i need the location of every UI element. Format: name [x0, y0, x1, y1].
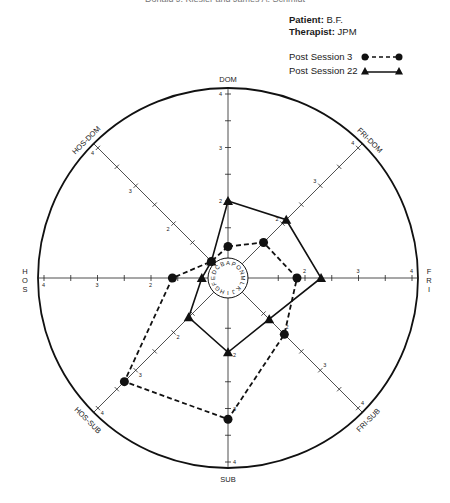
tick-label: 4: [219, 91, 222, 97]
tick-label: 3: [323, 362, 326, 368]
tick-label: 4: [91, 150, 94, 156]
tick-label: 2: [285, 324, 288, 330]
axis-label-hos-sub: HOS-SUB: [73, 405, 104, 436]
tick-label: 4: [42, 282, 45, 288]
tick-label: 4: [233, 459, 236, 465]
axis-label-fri: F: [427, 267, 432, 276]
data-point-circle: [280, 330, 289, 339]
tick-label: 4: [101, 410, 104, 416]
axis-label-fri: R: [426, 276, 432, 285]
ring-letter: A: [226, 260, 230, 266]
ring-letter: M: [240, 276, 246, 281]
tick-label: 2: [167, 226, 170, 232]
tick-label: 4: [410, 268, 413, 274]
axis-line-fri-sub: [242, 292, 362, 412]
tick-label: 3: [219, 145, 222, 151]
tick-label: 3: [313, 178, 316, 184]
tick-label: 3: [357, 268, 360, 274]
axis-label-hos: O: [22, 276, 28, 285]
data-point-circle: [168, 274, 177, 283]
tick-label: 2: [275, 216, 278, 222]
axis-label-fri: I: [428, 285, 430, 294]
tick-label: 2: [219, 198, 222, 204]
axis-label-hos: H: [22, 267, 27, 276]
tick-label: 4: [351, 140, 354, 146]
radar-chart: ABCDEFGHIJKLMNOP 23423423423423423423423…: [0, 0, 450, 503]
axis-label-sub: SUB: [220, 475, 235, 484]
axis-label-dom: DOM: [219, 75, 237, 84]
tick-label: 2: [303, 268, 306, 274]
tick-label: 2: [233, 352, 236, 358]
tick-label: 3: [139, 372, 142, 378]
ring-letter: E: [210, 276, 216, 280]
data-point-triangle: [197, 273, 207, 282]
tick-label: 3: [233, 406, 236, 412]
axis-line-hos-dom: [94, 144, 214, 264]
axis-line-hos-sub: [94, 292, 214, 412]
tick-label: 3: [129, 188, 132, 194]
tick-label: 2: [177, 334, 180, 340]
data-point-circle: [224, 242, 233, 251]
axis-label-fri-sub: FRI-SUB: [354, 406, 382, 434]
axis-label-hos: S: [22, 285, 27, 294]
data-point-circle: [120, 377, 129, 386]
tick-label: 4: [361, 400, 364, 406]
data-point-triangle: [223, 196, 233, 205]
data-point-triangle: [316, 273, 326, 282]
data-point-circle: [292, 274, 301, 283]
data-point-circle: [224, 415, 233, 424]
data-point-circle: [259, 238, 268, 247]
tick-label: 3: [96, 282, 99, 288]
tick-label: 2: [149, 282, 152, 288]
